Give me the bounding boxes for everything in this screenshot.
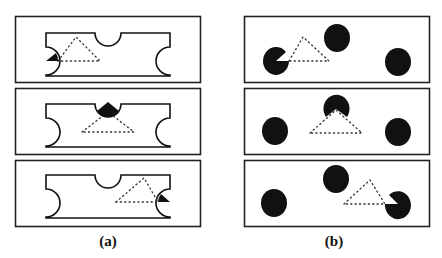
pacman-disk-right [385,191,411,219]
disk-right [385,48,411,76]
disk-left [261,189,287,217]
highlighted-wedge [46,53,58,61]
panel-frame [16,17,201,83]
panel-a-row-1 [16,17,201,83]
pacman-disk-top [324,95,350,117]
disk-top [323,165,349,193]
notched-shape-outline [46,33,170,76]
panel-frame [16,89,201,155]
panel-frame [16,161,201,227]
panel-b-row-1 [245,17,430,83]
illusory-triangle [310,110,362,133]
illusory-triangle [289,37,329,61]
panel-a-row-2 [16,89,201,155]
pacman-disk-left [263,47,289,75]
panel-a-row-3 [16,161,201,227]
disk-right [385,118,411,146]
disk-top [324,24,350,52]
panel-b-row-2 [245,89,430,155]
figure-canvas: (a) (b) [0,0,442,258]
panel-label-a: (a) [99,233,117,250]
notched-shape-outline [46,175,170,218]
illusory-triangle [116,178,158,202]
disk-left [262,117,288,145]
panel-b-row-3 [245,161,430,227]
highlighted-wedge [158,194,170,202]
illusory-triangle [58,37,100,61]
illusory-triangle [344,180,385,204]
panel-label-b: (b) [325,233,343,250]
